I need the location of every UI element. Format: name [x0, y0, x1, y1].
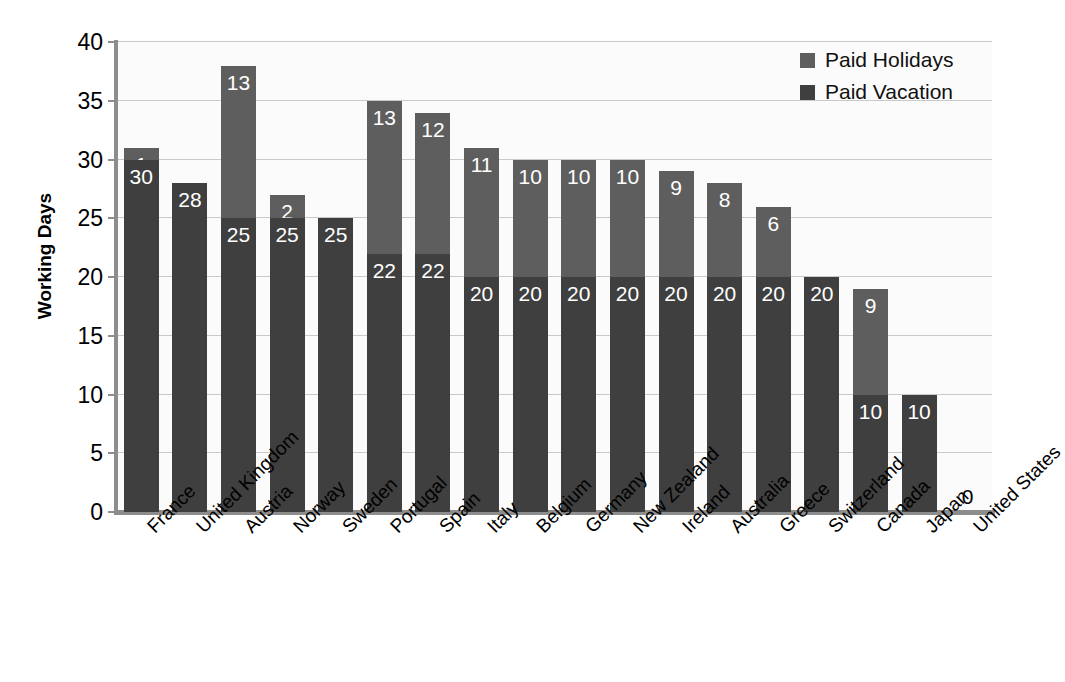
bar-segment-paid-holidays[interactable]: 8 [707, 183, 742, 277]
y-tick-mark-30 [108, 159, 116, 161]
bar-value-label-paid-vacation: 20 [804, 283, 839, 304]
y-tick-label-5: 5 [58, 440, 103, 467]
y-tick-label-10: 10 [58, 382, 103, 409]
bar-segment-paid-holidays[interactable]: 9 [659, 171, 694, 277]
y-tick-mark-10 [108, 394, 116, 396]
bar-segment-paid-vacation[interactable]: 25 [318, 218, 353, 512]
bar-group[interactable]: 1020 [610, 160, 645, 513]
bar-segment-paid-holidays[interactable]: 6 [756, 207, 791, 278]
bar-segment-paid-vacation[interactable]: 28 [172, 183, 207, 512]
bar-group[interactable]: 1120 [464, 148, 499, 512]
y-tick-mark-25 [108, 217, 116, 219]
gridline-40 [117, 41, 992, 42]
legend-swatch-paid-holidays [800, 53, 815, 68]
bar-group[interactable]: 28 [172, 183, 207, 512]
bar-value-label-paid-vacation: 10 [902, 401, 937, 422]
y-tick-label-25: 25 [58, 205, 103, 232]
bar-value-label-paid-vacation: 30 [124, 166, 159, 187]
bar-segment-paid-holidays[interactable]: 10 [561, 160, 596, 278]
y-tick-mark-40 [108, 41, 116, 43]
legend-item-paid-vacation[interactable]: Paid Vacation [800, 76, 990, 108]
legend-label-paid-vacation: Paid Vacation [825, 80, 953, 104]
bar-group[interactable]: 1020 [513, 160, 548, 513]
bar-value-label-paid-vacation: 20 [659, 283, 694, 304]
bar-segment-paid-holidays[interactable]: 12 [415, 113, 450, 254]
y-tick-mark-35 [108, 100, 116, 102]
bar-value-label-paid-holidays: 9 [853, 295, 888, 316]
bar-segment-paid-vacation[interactable]: 20 [464, 277, 499, 512]
bar-group[interactable]: 1322 [367, 101, 402, 512]
bar-group[interactable]: 1222 [415, 113, 450, 513]
bar-segment-paid-holidays[interactable]: 13 [367, 101, 402, 254]
y-tick-mark-5 [108, 452, 116, 454]
bar-value-label-paid-vacation: 20 [756, 283, 791, 304]
bar-value-label-paid-holidays: 11 [464, 154, 499, 175]
bar-segment-paid-holidays[interactable]: 13 [221, 66, 256, 219]
y-tick-label-40: 40 [58, 29, 103, 56]
legend-label-paid-holidays: Paid Holidays [825, 48, 953, 72]
bar-value-label-paid-holidays: 10 [610, 166, 645, 187]
bar-value-label-paid-holidays: 12 [415, 119, 450, 140]
bar-value-label-paid-vacation: 20 [464, 283, 499, 304]
y-tick-label-35: 35 [58, 88, 103, 115]
y-tick-label-15: 15 [58, 323, 103, 350]
bar-value-label-paid-holidays: 10 [561, 166, 596, 187]
chart-legend: Paid Holidays Paid Vacation [800, 44, 990, 108]
y-tick-mark-0 [108, 511, 116, 513]
bar-value-label-paid-vacation: 20 [610, 283, 645, 304]
legend-item-paid-holidays[interactable]: Paid Holidays [800, 44, 990, 76]
y-tick-mark-15 [108, 335, 116, 337]
bar-segment-paid-vacation[interactable]: 20 [804, 277, 839, 512]
bar-value-label-paid-vacation: 10 [853, 401, 888, 422]
bar-segment-paid-holidays[interactable]: 11 [464, 148, 499, 277]
bar-group[interactable]: 1020 [561, 160, 596, 513]
bar-value-label-paid-vacation: 20 [707, 283, 742, 304]
bar-value-label-paid-vacation: 22 [415, 260, 450, 281]
bar-value-label-paid-vacation: 22 [367, 260, 402, 281]
bar-segment-paid-holidays[interactable]: 2 [270, 195, 305, 219]
bar-value-label-paid-holidays: 8 [707, 189, 742, 210]
bar-value-label-paid-vacation: 20 [513, 283, 548, 304]
bar-group[interactable]: 20 [804, 277, 839, 512]
bar-value-label-paid-holidays: 13 [221, 72, 256, 93]
bar-value-label-paid-vacation: 25 [318, 224, 353, 245]
y-tick-mark-20 [108, 276, 116, 278]
bar-value-label-paid-vacation: 25 [270, 224, 305, 245]
bar-value-label-paid-vacation: 28 [172, 189, 207, 210]
bar-group[interactable]: 620 [756, 207, 791, 513]
bar-value-label-paid-holidays: 9 [659, 177, 694, 198]
bar-value-label-paid-vacation: 25 [221, 224, 256, 245]
bar-group[interactable]: 1325 [221, 66, 256, 513]
y-tick-label-0: 0 [58, 499, 103, 526]
bar-group[interactable]: 25 [318, 218, 353, 512]
bar-segment-paid-vacation[interactable]: 22 [367, 254, 402, 513]
y-tick-label-30: 30 [58, 147, 103, 174]
bar-segment-paid-holidays[interactable]: 10 [513, 160, 548, 278]
bar-value-label-paid-holidays: 10 [513, 166, 548, 187]
legend-swatch-paid-vacation [800, 85, 815, 100]
bar-segment-paid-holidays[interactable]: 9 [853, 289, 888, 395]
bar-segment-paid-vacation[interactable]: 20 [513, 277, 548, 512]
bar-value-label-paid-holidays: 6 [756, 213, 791, 234]
y-axis-title: Working Days [34, 166, 56, 346]
bar-segment-paid-holidays[interactable]: 10 [610, 160, 645, 278]
bar-value-label-paid-vacation: 20 [561, 283, 596, 304]
y-tick-label-20: 20 [58, 264, 103, 291]
bar-group[interactable]: 130 [124, 148, 159, 512]
bar-segment-paid-holidays[interactable]: 1 [124, 148, 159, 160]
bar-segment-paid-vacation[interactable]: 20 [707, 277, 742, 512]
bar-segment-paid-vacation[interactable]: 30 [124, 160, 159, 513]
bar-value-label-paid-holidays: 13 [367, 107, 402, 128]
